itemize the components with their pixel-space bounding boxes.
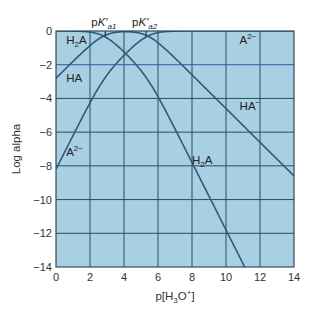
y-tick-label: −10 <box>33 194 52 206</box>
x-axis-title: p[H3O+] <box>155 288 194 305</box>
y-tick-label: 0 <box>46 25 52 37</box>
y-tick-label: −6 <box>39 126 52 138</box>
y-axis-ticks: 0−2−4−6−8−10−12−14 <box>33 25 52 273</box>
y-tick-label: −14 <box>33 261 52 273</box>
log-alpha-chart: pK′a1pK′a2 0−2−4−6−8−10−12−14 0246810121… <box>0 0 313 312</box>
x-tick-label: 2 <box>87 271 93 283</box>
x-axis-ticks: 02468101214 <box>53 271 300 283</box>
y-tick-label: −12 <box>33 227 52 239</box>
x-tick-label: 0 <box>53 271 59 283</box>
y-tick-label: −4 <box>39 92 52 104</box>
plot-background <box>56 31 294 267</box>
x-tick-label: 4 <box>121 271 127 283</box>
pka-label: pK′a1 <box>91 16 116 31</box>
y-axis-title: Log alpha <box>10 123 22 174</box>
x-tick-label: 14 <box>288 271 300 283</box>
y-tick-label: −2 <box>39 59 52 71</box>
x-tick-label: 6 <box>155 271 161 283</box>
x-tick-label: 10 <box>220 271 232 283</box>
x-tick-label: 12 <box>254 271 266 283</box>
curve-label: HA <box>66 72 82 84</box>
x-tick-label: 8 <box>189 271 195 283</box>
pka-label: pK′a2 <box>132 16 158 31</box>
y-tick-label: −8 <box>39 160 52 172</box>
